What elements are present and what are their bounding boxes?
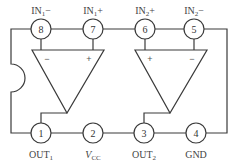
- pin-8: 8 IN1−: [31, 5, 51, 39]
- package-outline: [11, 29, 227, 133]
- svg-text:7: 7: [91, 24, 96, 35]
- op-amp-2-inverting-sign: −: [189, 54, 194, 64]
- svg-text:1: 1: [39, 128, 44, 139]
- ic-pinout-diagram: − + + − 8 IN1− 7 IN1+ 6 IN2+ 5 IN2− 1 OU…: [0, 0, 235, 166]
- svg-text:5: 5: [192, 24, 197, 35]
- svg-text:3: 3: [142, 128, 147, 139]
- pin-1: 1 OUT1: [29, 123, 54, 162]
- svg-text:2: 2: [91, 128, 96, 139]
- pin-6: 6 IN2+: [135, 5, 155, 39]
- pin-3: 3 OUT2: [132, 123, 157, 162]
- svg-text:OUT2: OUT2: [132, 149, 157, 162]
- svg-text:IN2−: IN2−: [184, 5, 204, 18]
- svg-text:GND: GND: [185, 149, 207, 160]
- svg-text:6: 6: [143, 24, 148, 35]
- svg-text:8: 8: [39, 24, 44, 35]
- op-amp-1-triangle: [32, 50, 104, 113]
- pin-2: 2 VCC: [83, 123, 103, 162]
- pin-5: 5 IN2−: [184, 5, 204, 39]
- svg-text:IN2+: IN2+: [135, 5, 155, 18]
- op-amp-2: + −: [135, 39, 207, 123]
- pin-7: 7 IN1+: [83, 5, 103, 39]
- op-amp-1-inverting-sign: −: [44, 54, 49, 64]
- op-amp-1: − +: [32, 39, 104, 123]
- pin-4: 4 GND: [185, 123, 207, 160]
- svg-text:4: 4: [194, 128, 199, 139]
- svg-text:IN1+: IN1+: [83, 5, 103, 18]
- op-amp-1-noninverting-sign: +: [86, 54, 91, 64]
- op-amp-2-triangle: [135, 50, 207, 113]
- svg-text:IN1−: IN1−: [31, 5, 51, 18]
- op-amp-2-noninverting-sign: +: [147, 54, 152, 64]
- svg-text:OUT1: OUT1: [29, 149, 54, 162]
- svg-text:VCC: VCC: [85, 149, 101, 162]
